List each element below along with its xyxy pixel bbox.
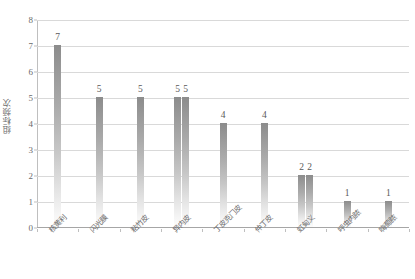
gridline (37, 98, 409, 99)
y-tick-mark (34, 202, 37, 203)
bar-value-label: 5 (97, 85, 102, 95)
y-tick-label: 2 (29, 172, 34, 181)
y-tick-mark (34, 72, 37, 73)
x-tick-mark (120, 229, 121, 232)
bar-chart: 组标频次 012345678 75555442211 核黄利闪光膜粘竹皮异内皮丁… (0, 0, 415, 279)
bar-value-label: 5 (183, 85, 188, 95)
bar[interactable] (54, 45, 61, 227)
bar[interactable] (96, 97, 103, 227)
x-tick-mark (409, 229, 410, 232)
y-tick-label: 1 (29, 198, 34, 207)
gridline (37, 72, 409, 73)
bar-value-label: 1 (386, 189, 391, 199)
y-tick-mark (34, 124, 37, 125)
y-tick-mark (34, 46, 37, 47)
bar[interactable] (182, 97, 189, 227)
y-tick-label: 6 (29, 68, 34, 77)
x-tick-mark (244, 229, 245, 232)
bar[interactable] (137, 97, 144, 227)
x-tick-mark (37, 229, 38, 232)
y-tick-mark (34, 150, 37, 151)
y-tick-label: 5 (29, 94, 34, 103)
x-axis-labels-group: 核黄利闪光膜粘竹皮异内皮丁皮克门皮仲丁皮虹甸义呼虫内脓嗨萄脓 (0, 229, 415, 279)
x-tick-mark (161, 229, 162, 232)
y-tick-mark (34, 176, 37, 177)
bar-value-label: 2 (299, 163, 304, 173)
y-axis-title-text: 组标频次 (4, 98, 13, 134)
x-tick-mark (202, 229, 203, 232)
y-tick-mark (34, 20, 37, 21)
x-tick-mark (326, 229, 327, 232)
bar-value-label: 1 (345, 189, 350, 199)
bar[interactable] (174, 97, 181, 227)
bar[interactable] (261, 123, 268, 227)
bar-value-label: 4 (221, 111, 226, 121)
y-tick-label: 8 (29, 16, 34, 25)
x-tick-mark (285, 229, 286, 232)
y-axis-title: 组标频次 (0, 0, 16, 232)
plot-area: 012345678 75555442211 (37, 20, 409, 228)
bar-value-label: 5 (175, 85, 180, 95)
bar[interactable] (220, 123, 227, 227)
y-tick-label: 3 (29, 146, 34, 155)
gridline (37, 20, 409, 21)
y-tick-label: 7 (29, 42, 34, 51)
bar-value-label: 5 (138, 85, 143, 95)
y-tick-mark (34, 98, 37, 99)
bar-value-label: 7 (55, 33, 60, 43)
gridline (37, 46, 409, 47)
y-tick-label: 4 (29, 120, 34, 129)
x-tick-mark (78, 229, 79, 232)
bar-value-label: 4 (262, 111, 267, 121)
bar-value-label: 2 (307, 163, 312, 173)
x-tick-mark (368, 229, 369, 232)
